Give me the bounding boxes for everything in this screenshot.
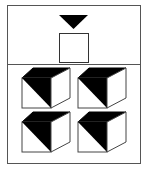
answer-option-4-cube-icon[interactable] bbox=[78, 112, 126, 152]
answer-option-1-cube-icon[interactable] bbox=[22, 68, 70, 108]
answer-option-3-cube-icon[interactable] bbox=[22, 112, 70, 152]
puzzle-figure bbox=[0, 0, 148, 171]
square-icon bbox=[60, 34, 89, 63]
answer-option-2-cube-icon[interactable] bbox=[78, 68, 126, 108]
